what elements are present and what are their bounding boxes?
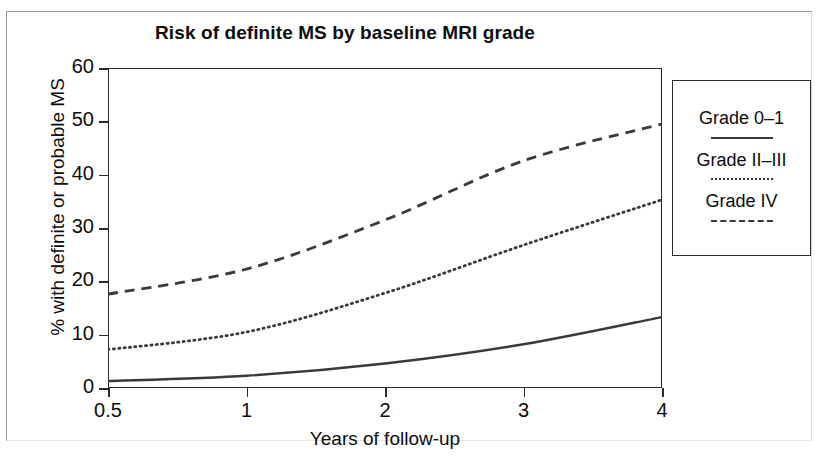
legend-box: Grade 0–1Grade II–IIIGrade IV: [672, 80, 811, 256]
x-tick-mark: [247, 388, 249, 397]
x-tick-label: 2: [379, 399, 390, 422]
legend-line-swatch-solid: [711, 134, 773, 143]
figure-container: Risk of definite MS by baseline MRI grad…: [0, 0, 828, 462]
x-tick-label: 0.5: [94, 399, 122, 422]
legend-entry: Grade IV: [673, 191, 810, 226]
x-tick-mark: [524, 388, 526, 397]
legend-label: Grade IV: [705, 191, 777, 212]
x-tick-mark: [385, 388, 387, 397]
x-tick-label: 1: [241, 399, 252, 422]
x-tick-mark: [108, 388, 110, 397]
legend-line-swatch-dotted: [711, 175, 773, 184]
legend-label: Grade II–III: [696, 150, 786, 171]
legend-label: Grade 0–1: [699, 108, 784, 129]
x-axis-label: Years of follow-up: [108, 428, 662, 450]
x-tick-label: 4: [656, 399, 667, 422]
legend-entry: Grade 0–1: [673, 108, 810, 150]
legend-line-swatch-dashed: [711, 217, 773, 226]
x-tick-label: 3: [518, 399, 529, 422]
x-tick-mark: [662, 388, 664, 397]
legend-entry: Grade II–III: [673, 150, 810, 192]
